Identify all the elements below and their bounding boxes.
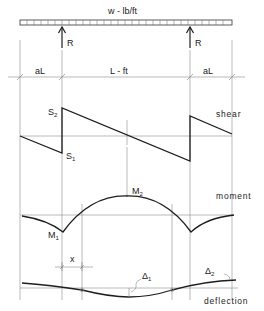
m1-label: M1 [48, 230, 60, 241]
load-label: w - lb/ft [107, 6, 138, 16]
right-reaction-arrow-icon [187, 27, 194, 48]
s1-label: S1 [66, 151, 76, 162]
shear-caption: shear [216, 109, 241, 119]
left-reaction-arrow-icon [59, 27, 66, 48]
deflection-caption: deflection [204, 296, 248, 306]
m2-label: M2 [132, 186, 144, 197]
beam [20, 20, 232, 25]
delta2-label: Δ2 [205, 266, 215, 277]
beam-diagram: w - lb/ft R R [0, 0, 264, 311]
vertical-guides [20, 40, 232, 300]
main-span-label: L - ft [110, 66, 128, 76]
moment-caption: moment [216, 191, 252, 201]
delta1-label: Δ1 [142, 271, 152, 282]
right-reaction-label: R [195, 38, 202, 48]
right-overhang-label: aL [203, 66, 213, 76]
x-label: x [70, 254, 75, 264]
s2-label: S2 [48, 107, 58, 118]
left-overhang-label: aL [35, 66, 45, 76]
moment-diagram [20, 196, 234, 300]
left-reaction-label: R [67, 38, 74, 48]
